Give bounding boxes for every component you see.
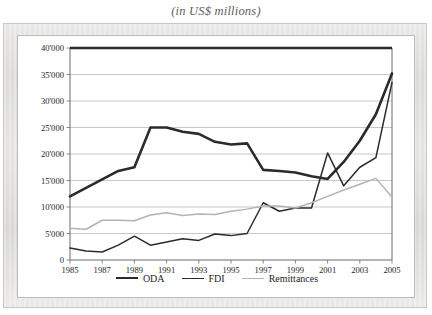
chart-figure: (in US$ millions) 05'00010'00015'00020'0…: [0, 0, 432, 315]
gridlines: [67, 48, 393, 264]
legend-item-oda: ODA: [116, 273, 165, 284]
legend-swatch-oda: [116, 277, 138, 279]
figure-panel: 05'00010'00015'00020'00025'00030'00035'0…: [17, 35, 415, 298]
legend-label-fdi: FDI: [209, 273, 225, 284]
y-tick-label: 15'000: [41, 176, 64, 186]
y-tick-label: 5'000: [45, 229, 64, 239]
data-series-group: [70, 73, 392, 252]
legend-swatch-remittances: [242, 278, 264, 279]
figure-caption: (in US$ millions): [0, 0, 432, 22]
y-tick-label: 25'000: [41, 123, 64, 133]
legend-label-remittances: Remittances: [269, 273, 318, 284]
line-chart: 05'00010'00015'00020'00025'00030'00035'0…: [18, 36, 416, 299]
legend-item-fdi: FDI: [182, 273, 225, 284]
y-tick-label: 20'000: [41, 149, 64, 159]
legend-label-oda: ODA: [143, 273, 165, 284]
y-tick-label: 40'000: [41, 43, 64, 53]
y-tick-label: 30'000: [41, 96, 64, 106]
y-tick-label: 0: [60, 255, 64, 265]
chart-legend: ODA FDI Remittances: [18, 268, 416, 288]
legend-item-remittances: Remittances: [242, 273, 318, 284]
y-axis-tick-labels: 05'00010'00015'00020'00025'00030'00035'0…: [41, 43, 64, 265]
figure-frame: 05'00010'00015'00020'00025'00030'00035'0…: [3, 23, 427, 308]
series-line-oda: [70, 73, 392, 196]
y-tick-label: 10'000: [41, 202, 64, 212]
legend-swatch-fdi: [182, 278, 204, 279]
y-tick-label: 35'000: [41, 70, 64, 80]
chart-canvas: 05'00010'00015'00020'00025'00030'00035'0…: [18, 36, 416, 299]
series-line-fdi: [70, 82, 392, 252]
